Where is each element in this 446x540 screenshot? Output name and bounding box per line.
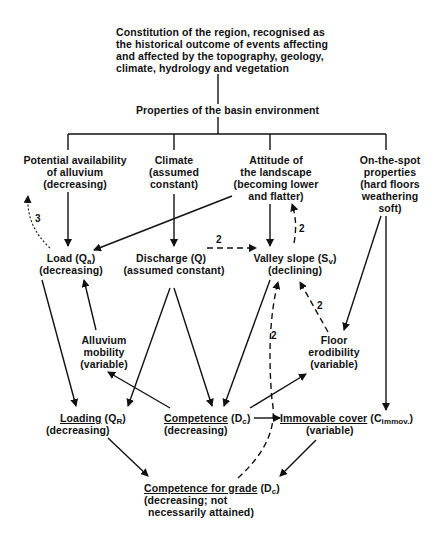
node-text: ) (122, 412, 126, 424)
node-line: (assumed (144, 166, 204, 178)
node-line: (hard floors (352, 178, 428, 190)
node-text: (C (367, 412, 381, 424)
edge-label: 2 (271, 330, 277, 341)
alluvium-availability-node: Potential availability of alluvium (decr… (20, 154, 130, 190)
node-text: ) (247, 412, 251, 424)
node-line: (decreasing) (34, 264, 108, 276)
node-text: ) (333, 252, 337, 264)
climate-node: Climate (assumed constant) (144, 154, 204, 190)
node-line: Discharge (Q) (122, 252, 226, 264)
node-line: (decreasing) (164, 424, 250, 436)
competence-node: Competence (Dc) (decreasing) (164, 412, 250, 436)
loading-node: Loading (QR) (decreasing) (46, 412, 126, 436)
node-line: (assumed constant) (122, 264, 226, 276)
node-line: (decreasing) (20, 178, 130, 190)
node-line: (variable) (78, 358, 130, 370)
node-line: properties (352, 166, 428, 178)
basin-node: Properties of the basin environment (136, 104, 319, 116)
landscape-node: Attitude of the landscape (becoming lowe… (232, 154, 320, 202)
subscript: immov. (382, 417, 410, 426)
node-line: mobility (78, 346, 130, 358)
node-text: Immovable cover (280, 412, 367, 424)
node-text: (D (257, 482, 271, 494)
node-line: Alluvium (78, 334, 130, 346)
edge-label: 2 (317, 300, 323, 311)
edge-label: 2 (216, 234, 222, 245)
node-line: (decreasing) (46, 424, 126, 436)
root-line: Constitution of the region, recognised a… (116, 26, 328, 38)
node-line: necessarily attained) (144, 506, 280, 518)
alluvium-mobility-node: Alluvium mobility (variable) (78, 334, 130, 370)
immovable-cover-node: Immovable cover (Cimmov.) (variable) (280, 412, 413, 436)
node-text: (Q (102, 412, 117, 424)
node-line: and flatter) (232, 190, 320, 202)
root-node: Constitution of the region, recognised a… (116, 26, 328, 74)
node-text: (D (228, 412, 242, 424)
root-line: climate, hydrology and vegetation (116, 62, 328, 74)
node-line: (becoming lower (232, 178, 320, 190)
node-line: (variable) (304, 358, 364, 370)
competence-for-grade-node: Competence for grade (Dc) (decreasing; n… (144, 482, 280, 518)
node-line: Attitude of (232, 154, 320, 166)
root-line: the historical outcome of events affecti… (116, 38, 328, 50)
discharge-node: Discharge (Q) (assumed constant) (122, 252, 226, 276)
node-line: (decreasing; not (144, 494, 280, 506)
basin-label: Properties of the basin environment (136, 104, 319, 116)
node-line: Climate (144, 154, 204, 166)
load-node: Load (Qa) (decreasing) (34, 252, 108, 276)
node-text: ) (410, 412, 414, 424)
node-line: Floor (304, 334, 364, 346)
node-line: the landscape (232, 166, 320, 178)
node-text: Load (Q (47, 252, 87, 264)
valley-slope-node: Valley slope (Sv) (declining) (248, 252, 342, 276)
node-text: ) (92, 252, 96, 264)
node-line: On-the-spot (352, 154, 428, 166)
node-line: soft) (352, 202, 428, 214)
node-line: of alluvium (20, 166, 130, 178)
node-line: erodibility (304, 346, 364, 358)
on-the-spot-node: On-the-spot properties (hard floors weat… (352, 154, 428, 214)
node-text: Valley slope (S (253, 252, 328, 264)
node-text: Loading (60, 412, 102, 424)
root-line: and affected by the topography, geology, (116, 50, 328, 62)
node-text: Competence for grade (144, 482, 257, 494)
node-text: Competence (164, 412, 228, 424)
node-line: weathering (352, 190, 428, 202)
node-line: Potential availability (20, 154, 130, 166)
node-text: ) (276, 482, 280, 494)
floor-erodibility-node: Floor erodibility (variable) (304, 334, 364, 370)
edge-label: 3 (35, 213, 41, 224)
node-line: constant) (144, 178, 204, 190)
edge-label: 2 (299, 223, 305, 234)
